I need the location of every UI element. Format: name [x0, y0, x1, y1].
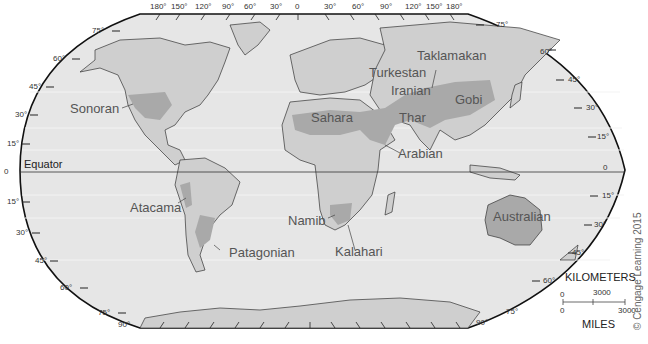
longitude-label: 180° [150, 2, 167, 11]
desert-label-sahara: Sahara [311, 110, 353, 125]
longitude-label: 90° [380, 2, 392, 11]
equator-label: Equator [24, 158, 63, 170]
desert-label-taklamakan: Taklamakan [417, 48, 486, 63]
latitude-label: 15° [602, 191, 614, 200]
latitude-label: 0 [4, 167, 8, 176]
desert-label-atacama: Atacama [130, 200, 181, 215]
desert-label-australian: Australian [493, 209, 551, 224]
latitude-label: 60° [540, 47, 552, 56]
latitude-label: 45° [572, 248, 584, 257]
longitude-label: 0 [295, 2, 299, 11]
desert-label-gobi: Gobi [455, 92, 482, 107]
copyright-text: © Cengage Learning 2015 [632, 213, 643, 330]
latitude-label: 30° [586, 103, 598, 112]
desert-label-kalahari: Kalahari [335, 244, 383, 259]
longitude-label: 150° [426, 2, 443, 11]
longitude-label: 90° [222, 2, 234, 11]
latitude-label: 75° [506, 307, 518, 316]
longitude-label: 180° [446, 2, 463, 11]
latitude-label: 15° [7, 139, 19, 148]
latitude-label: 0 [603, 163, 607, 172]
latitude-label: 75° [496, 20, 508, 29]
latitude-label: 75° [92, 26, 104, 35]
scale-mi-label: MILES [582, 318, 615, 330]
desert-label-sonoran: Sonoran [70, 101, 119, 116]
latitude-label: 60° [543, 276, 555, 285]
longitude-label: 120° [195, 2, 212, 11]
scale-mi-zero: 0 [560, 306, 564, 315]
latitude-label: 45° [29, 82, 41, 91]
latitude-label: 30° [16, 228, 28, 237]
longitude-label: 60° [352, 2, 364, 11]
scale-bar [563, 299, 625, 305]
latitude-label: 60° [60, 283, 72, 292]
latitude-label: 30° [15, 110, 27, 119]
desert-label-arabian: Arabian [398, 146, 443, 161]
longitude-label: 60° [244, 2, 256, 11]
longitude-label: 30° [270, 2, 282, 11]
latitude-label: 15° [7, 197, 19, 206]
scale-km-max: 3000 [593, 288, 611, 297]
longitude-label: 30° [324, 2, 336, 11]
scale-km-zero: 0 [560, 290, 564, 299]
desert-label-turkestan: Turkestan [369, 65, 426, 80]
latitude-label: 60° [53, 54, 65, 63]
longitude-label: 150° [171, 2, 188, 11]
latitude-label: 45° [568, 75, 580, 84]
latitude-label: 45° [35, 256, 47, 265]
desert-label-namib: Namib [288, 213, 326, 228]
latitude-label: 90° [476, 318, 488, 327]
latitude-label: 30° [594, 220, 606, 229]
desert-label-patagonian: Patagonian [229, 245, 295, 260]
desert-label-iranian: Iranian [391, 83, 431, 98]
latitude-label: 15° [597, 132, 609, 141]
latitude-label: 75° [98, 308, 110, 317]
latitude-label: 90° [118, 320, 130, 329]
desert-label-thar: Thar [399, 110, 426, 125]
longitude-label: 120° [405, 2, 422, 11]
scale-km-label: KILOMETERS [565, 271, 636, 283]
